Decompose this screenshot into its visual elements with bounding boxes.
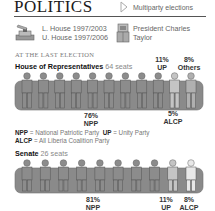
senate-npp-party: NPP <box>80 204 106 211</box>
house-up-pct: 11% <box>151 56 173 64</box>
legend-alcp-abbr: ALCP <box>15 137 32 144</box>
president-info: President Charles Taylor <box>133 25 190 42</box>
house-seats: 64 seats <box>105 62 132 71</box>
senate-up-pct: 11% <box>155 196 177 204</box>
house-label: House of Representatives 64 seats <box>15 62 132 71</box>
house-npp-pct: 76% <box>78 112 104 120</box>
senate-up-label: 11% UP <box>155 196 177 210</box>
senate-seats: 26 seats <box>41 149 68 158</box>
header-rule <box>14 16 206 17</box>
senate-alcp-party: ALCP <box>176 204 202 211</box>
house-up-label: 11% UP <box>151 56 173 71</box>
house-npp-label: 76% NPP <box>78 112 104 127</box>
senate-up-party: UP <box>155 204 177 211</box>
senate-alcp-pct: 8% <box>176 196 202 204</box>
house-terms: L. House 1997/2003 U. House 1997/2006 <box>42 25 108 42</box>
subtitle-group: Multiparty elections <box>120 0 193 14</box>
ballot-box-icon <box>15 23 35 41</box>
house-alcp-label: 5% ALCP <box>159 110 187 125</box>
house-up-party: UP <box>151 64 173 72</box>
house-others-party: Others <box>174 64 204 72</box>
legend-npp-full: = National Patriotic Party <box>28 129 99 136</box>
house-others-label: 8% Others <box>174 56 204 71</box>
senate-alcp-label: 8% ALCP <box>176 196 202 210</box>
senate-npp-pct: 81% <box>80 196 106 204</box>
senate-title: Senate <box>15 149 39 158</box>
house-title: House of Representatives <box>15 62 103 71</box>
party-legend: NPP = National Patriotic Party UP = Unit… <box>15 129 149 144</box>
house-npp-party: NPP <box>78 120 104 128</box>
upper-house-term: U. House 1997/2006 <box>42 34 108 43</box>
subtitle: Multiparty elections <box>133 4 193 11</box>
legend-up-full: = Unity Party <box>111 129 149 136</box>
legend-line1: NPP = National Patriotic Party UP = Unit… <box>15 129 149 137</box>
house-others-pct: 8% <box>174 56 204 64</box>
house-alcp-pct: 5% <box>159 110 187 118</box>
house-alcp-party: ALCP <box>159 118 187 126</box>
president-line2: Taylor <box>133 34 190 43</box>
legend-alcp-full: = All Liberia Coalition Party <box>32 137 109 144</box>
section-label: AT THE LAST ELECTION <box>15 51 94 58</box>
triangle-pointer-icon <box>120 1 128 13</box>
senate-label: Senate 26 seats <box>15 149 68 158</box>
house-pictogram <box>13 72 205 112</box>
president-icon <box>116 23 130 43</box>
legend-npp-abbr: NPP <box>15 129 28 136</box>
senate-pictogram <box>13 159 205 195</box>
senate-npp-label: 81% NPP <box>80 196 106 210</box>
legend-line2: ALCP = All Liberia Coalition Party <box>15 137 149 145</box>
page-title: POLITICS <box>14 0 93 17</box>
